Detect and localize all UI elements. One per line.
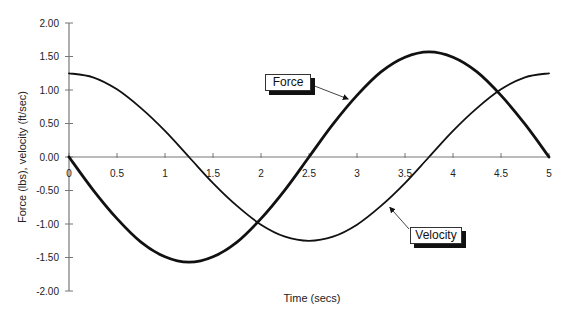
y-tick-label: -1.50	[36, 252, 59, 263]
y-axis: 2.001.501.000.500.00-0.50-1.00-1.50-2.00	[36, 18, 73, 297]
x-tick-label: 0.5	[110, 168, 124, 179]
x-tick-label: 5	[546, 168, 552, 179]
y-tick-label: 1.00	[40, 85, 60, 96]
x-tick-label: 4.5	[494, 168, 508, 179]
y-tick-label: -2.00	[36, 286, 59, 297]
y-tick-label: -1.00	[36, 219, 59, 230]
y-tick-label: 0.00	[40, 152, 60, 163]
force-arrow-icon	[312, 85, 348, 99]
x-tick-label: 2	[258, 168, 264, 179]
y-tick-label: 0.50	[40, 118, 60, 129]
velocity-callout-label: Velocity	[410, 227, 462, 244]
x-tick-label: 2.5	[302, 168, 316, 179]
y-tick-label: 2.00	[40, 18, 60, 29]
y-tick-label: -0.50	[36, 185, 59, 196]
chart: 2.001.501.000.500.00-0.50-1.00-1.50-2.00…	[0, 0, 566, 325]
x-tick-label: 1	[162, 168, 168, 179]
x-tick-label: 0	[66, 168, 72, 179]
x-tick-label: 4	[450, 168, 456, 179]
velocity-arrow-icon	[390, 207, 409, 229]
y-axis-title: Force (lbs), velocity (ft/sec)	[16, 91, 28, 223]
x-tick-label: 3	[354, 168, 360, 179]
x-axis-title: Time (secs)	[283, 292, 340, 304]
force-callout-label: Force	[265, 74, 311, 91]
y-tick-label: 1.50	[40, 51, 60, 62]
